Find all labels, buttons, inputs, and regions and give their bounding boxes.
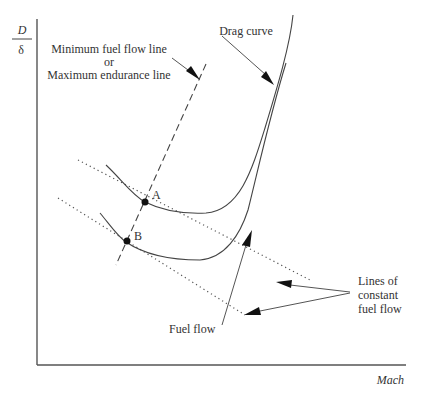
drag-curve-label: Drag curve xyxy=(219,24,273,38)
constant-fuel-flow-line-lower xyxy=(58,198,245,315)
drag-curve-lower xyxy=(100,63,286,260)
x-axis-label: Mach xyxy=(376,373,404,387)
constant-fuel-flow-label-line2: constant xyxy=(358,288,399,302)
point-b-label: B xyxy=(134,229,142,243)
constant-fuel-flow-line-upper xyxy=(78,160,310,280)
min-fuel-flow-arrowhead xyxy=(186,66,200,80)
y-axis-label-denominator: δ xyxy=(18,43,24,57)
constant-fuel-flow-label-line3: fuel flow xyxy=(358,302,402,316)
min-fuel-flow-line xyxy=(116,64,206,265)
min-fuel-flow-label-line1: Minimum fuel flow line xyxy=(51,42,167,56)
constant-fuel-arrow-upper-line xyxy=(290,285,350,292)
drag-curve-diagram: D δ Mach A B Minimum fuel flow line or M… xyxy=(0,0,422,394)
min-fuel-flow-label-line2: or xyxy=(104,55,114,69)
y-axis-label-numerator: D xyxy=(17,23,27,37)
point-a-label: A xyxy=(152,188,161,202)
constant-fuel-flow-label-line1: Lines of xyxy=(358,274,398,288)
drag-curve-arrowhead xyxy=(261,71,274,85)
fuel-flow-arrow-line xyxy=(222,245,246,325)
constant-fuel-arrow-upper-head xyxy=(276,280,292,288)
constant-fuel-arrow-lower-line xyxy=(260,293,350,311)
min-fuel-flow-label-line3: Maximum endurance line xyxy=(47,68,170,82)
drag-curve-arrow-line xyxy=(222,36,266,75)
constant-fuel-arrow-lower-head xyxy=(244,307,261,315)
point-a xyxy=(142,199,149,206)
fuel-flow-label: Fuel flow xyxy=(169,322,216,336)
point-b xyxy=(124,238,131,245)
fuel-flow-arrowhead xyxy=(242,230,252,247)
